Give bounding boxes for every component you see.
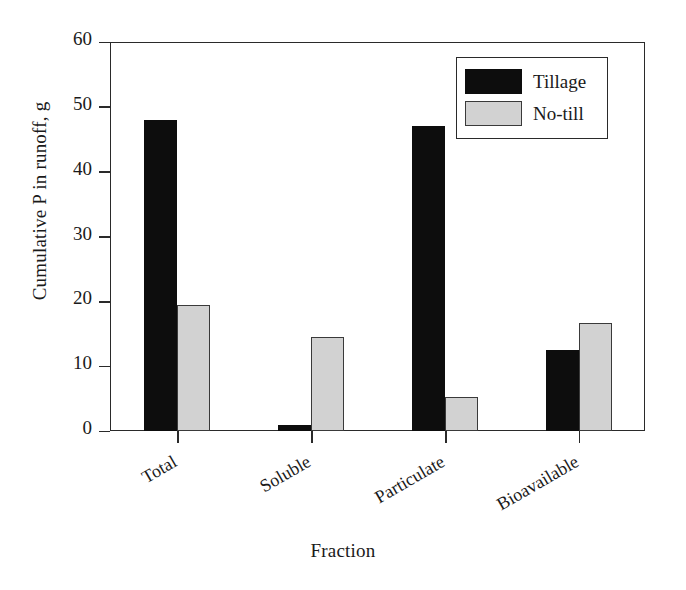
x-tick-label-text: Particulate — [371, 450, 450, 508]
y-tick-mark — [99, 171, 110, 173]
y-tick-label: 10 — [73, 353, 92, 372]
x-tick-mark — [311, 431, 313, 443]
y-tick-label: 50 — [73, 94, 92, 113]
y-tick-label: 60 — [73, 29, 92, 48]
y-tick-label: 30 — [73, 224, 92, 243]
y-axis-tick: 50 — [0, 107, 110, 108]
legend-entry-no-till: No-till — [465, 97, 599, 129]
bar-tillage-particulate — [412, 126, 445, 431]
chart-legend: Tillage No-till — [456, 57, 608, 139]
y-axis-tick: 60 — [0, 42, 110, 43]
bar-no-till-soluble — [311, 337, 344, 431]
bar-chart-figure: Cumulative P in runoff, g 0102030405060 … — [0, 0, 686, 590]
bar-tillage-bioavailable — [546, 350, 579, 431]
y-tick-mark — [99, 42, 110, 44]
y-tick-mark — [99, 301, 110, 303]
y-tick-label: 0 — [83, 418, 93, 437]
y-axis-tick: 20 — [0, 301, 110, 302]
y-axis-tick: 10 — [0, 366, 110, 367]
bar-tillage-soluble — [278, 425, 311, 431]
legend-label-tillage: Tillage — [533, 72, 586, 91]
x-tick-mark — [177, 431, 179, 443]
bar-tillage-total — [144, 120, 177, 431]
y-axis-tick: 30 — [0, 237, 110, 238]
legend-label-no-till: No-till — [533, 104, 584, 123]
x-tick-label-text: Total — [139, 450, 183, 488]
y-tick-mark — [99, 106, 110, 108]
legend-swatch-no-till-icon — [465, 101, 522, 126]
legend-entry-tillage: Tillage — [465, 65, 599, 97]
y-axis-tick: 40 — [0, 172, 110, 173]
y-tick-label: 20 — [73, 288, 92, 307]
bar-no-till-total — [177, 305, 210, 431]
x-tick-label-text: Soluble — [256, 450, 316, 497]
y-tick-mark — [99, 236, 110, 238]
x-tick-mark — [579, 431, 581, 443]
x-axis-title: Fraction — [0, 540, 686, 562]
y-axis-title: Cumulative P in runoff, g — [29, 61, 51, 341]
y-tick-mark — [99, 366, 110, 368]
x-tick-mark — [445, 431, 447, 443]
x-tick-label-text: Bioavailable — [493, 450, 584, 515]
y-tick-label: 40 — [73, 159, 92, 178]
bar-no-till-particulate — [445, 397, 478, 431]
legend-swatch-tillage-icon — [465, 69, 522, 94]
bar-no-till-bioavailable — [579, 323, 612, 431]
y-tick-mark — [99, 431, 110, 433]
y-axis-tick: 0 — [0, 431, 110, 432]
